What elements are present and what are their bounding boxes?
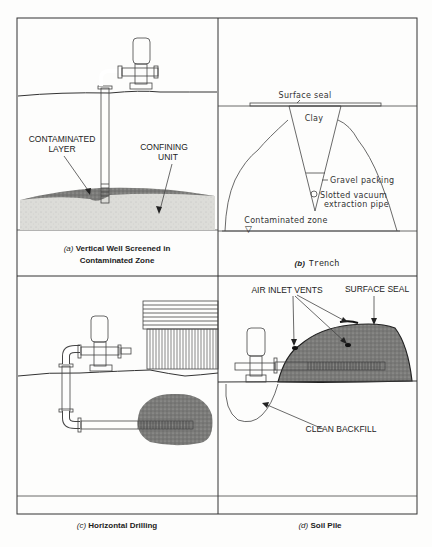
panel-d-soil-pile: AIR INLET VENTS SURFACE SEAL CLEAN BACKF… — [218, 284, 417, 530]
ground-surface-line — [18, 370, 218, 376]
caption-panel-d: (d) Soil Pile — [298, 521, 342, 530]
building — [143, 301, 218, 369]
soil-pile — [278, 324, 412, 382]
soil-vapor-extraction-figure: CONTAMINATED LAYER CONFINING UNIT (a) Ve… — [0, 0, 432, 547]
panel-b-trench: Surface seal Clay Gravel packing Slotted… — [218, 91, 417, 269]
label-confining-unit-2: UNIT — [158, 152, 178, 162]
label-gravel-packing: Gravel packing — [330, 176, 394, 185]
vacuum-pump — [235, 328, 277, 382]
label-clean-backfill: CLEAN BACKFILL — [306, 424, 377, 434]
label-surface-seal: SURFACE SEAL — [345, 284, 410, 294]
panel-a-vertical-well: CONTAMINATED LAYER CONFINING UNIT (a) Ve… — [18, 38, 217, 265]
well-casing — [101, 88, 109, 203]
clean-backfill-outline — [226, 384, 278, 422]
label-clay: Clay — [305, 114, 324, 123]
ground-surface-line — [18, 91, 217, 96]
label-contaminated-layer-1: CONTAMINATED — [29, 134, 96, 144]
label-slotted-pipe-2: extraction pipe — [324, 200, 389, 209]
water-table-icon: ▽ — [245, 224, 252, 234]
caption-panel-a-line2: Contaminated Zone — [80, 256, 155, 265]
label-contaminated-layer-2: LAYER — [48, 144, 75, 154]
label-slotted-pipe-1: Slotted vacuum — [320, 191, 387, 200]
arrow-contaminated-layer — [64, 156, 90, 193]
air-inlet-vent — [345, 343, 351, 347]
vacuum-pump — [78, 316, 131, 371]
caption-panel-c: (c) Horizontal Drilling — [77, 521, 158, 530]
label-air-inlet-vents: AIR INLET VENTS — [251, 285, 322, 295]
vacuum-pump — [118, 38, 158, 89]
caption-panel-a-line1: (a) Vertical Well Screened in — [64, 244, 171, 253]
label-contaminated-zone: Contaminated zone — [244, 216, 327, 225]
caption-panel-b: (b) Trench — [295, 252, 340, 269]
slotted-pipe — [311, 191, 317, 197]
contaminated-zone-blob — [138, 394, 213, 445]
label-surface-seal: Surface seal — [279, 91, 332, 100]
air-inlet-vent — [292, 346, 298, 350]
surface-seal-slab — [250, 103, 381, 106]
label-confining-unit-1: CONFINING — [140, 142, 188, 152]
